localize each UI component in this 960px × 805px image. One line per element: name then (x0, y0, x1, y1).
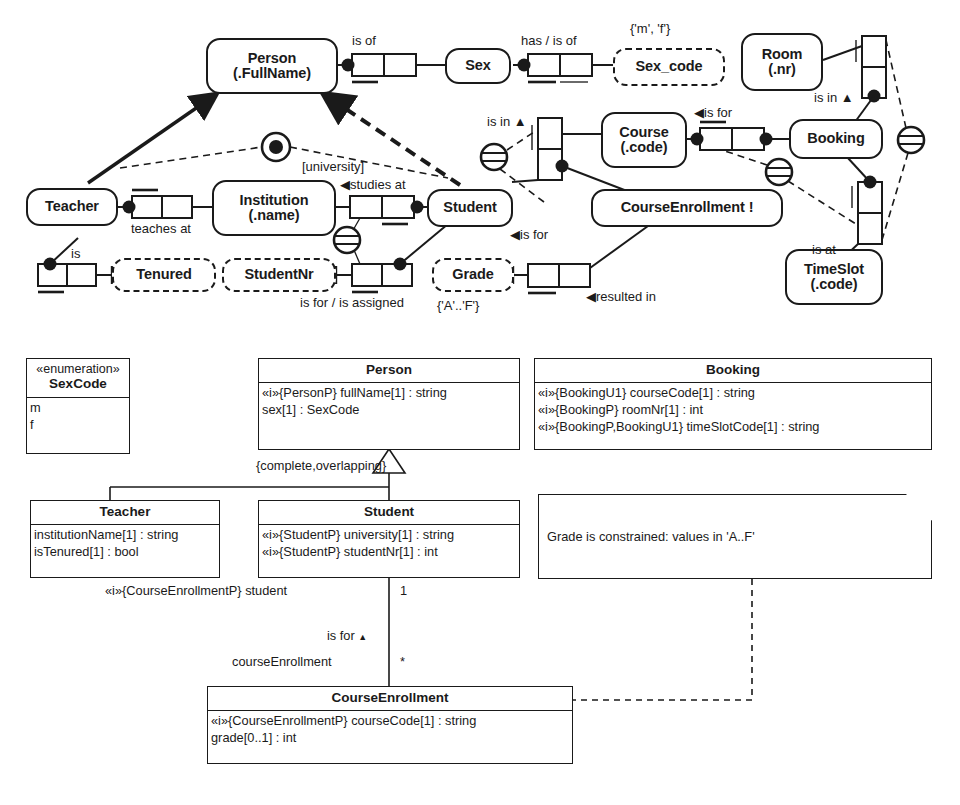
orm-entity-teacher[interactable]: Teacher (26, 188, 118, 226)
uml-class-teacher-header: Teacher (31, 501, 219, 525)
orm-value-sex-code[interactable]: Sex_code (613, 48, 725, 86)
uml-attribute: isTenured[1] : bool (34, 543, 216, 560)
orm-entity-booking[interactable]: Booking (789, 119, 883, 159)
uml-class-sexcode[interactable]: «enumeration» SexCode m f (26, 358, 130, 454)
predicate-person-sex (337, 54, 446, 82)
triangle-up-icon-2: ▲ (841, 90, 854, 105)
uml-class-booking-attributes: «i»{BookingU1} courseCode[1] : string «i… (535, 383, 931, 438)
uml-attribute: institutionName[1] : string (34, 526, 216, 543)
orm-label-grade-values: {'A'..'F'} (437, 299, 479, 313)
predicate-booking-timeslot (843, 157, 882, 258)
orm-entity-course[interactable]: Course (.code) (601, 112, 687, 168)
uml-attribute: «i»{StudentP} university[1] : string (262, 526, 516, 543)
predicate-room-booking (823, 36, 886, 122)
orm-label-is-for-student-enrollment: ◀is for (510, 228, 548, 242)
uml-attribute: grade[0..1] : int (211, 729, 569, 746)
uml-class-student-name: Student (261, 504, 517, 520)
uml-association-name: is for ▲ (327, 629, 367, 643)
orm-label-is-in-course: is in ▲ (487, 115, 527, 129)
orm-entity-person[interactable]: Person (.FullName) (206, 38, 338, 94)
orm-label-has-is-of: has / is of (521, 34, 577, 48)
orm-entity-course-enrollment[interactable]: CourseEnrollment ! (591, 189, 783, 227)
predicate-course-booking (686, 122, 790, 150)
uml-class-teacher[interactable]: Teacher institutionName[1] : string isTe… (30, 500, 220, 578)
orm-entity-institution[interactable]: Institution (.name) (212, 180, 336, 236)
orm-entity-student-name: Student (443, 200, 496, 215)
uml-class-person[interactable]: Person «i»{PersonP} fullName[1] : string… (258, 358, 520, 450)
orm-entity-room-ref: (.nr) (768, 62, 796, 77)
uml-attribute: «i»{BookingU1} courseCode[1] : string (538, 384, 928, 401)
orm-entity-course-ref: (.code) (621, 140, 668, 155)
uml-class-student[interactable]: Student «i»{StudentP} university[1] : st… (258, 500, 520, 578)
uml-attribute: f (30, 416, 126, 433)
uml-class-courseenrollment-attributes: «i»{CourseEnrollmentP} courseCode[1] : s… (208, 711, 572, 749)
uml-class-courseenrollment[interactable]: CourseEnrollment «i»{CourseEnrollmentP} … (207, 686, 573, 764)
orm-entity-institution-name: Institution (240, 193, 309, 208)
uml-attribute: «i»{BookingP,BookingU1} timeSlotCode[1] … (538, 418, 928, 435)
orm-value-grade-name: Grade (452, 267, 493, 282)
predicate-teacher-institution (118, 190, 212, 218)
orm-value-student-nr[interactable]: StudentNr (222, 258, 336, 292)
uml-class-sexcode-stereotype: «enumeration» (29, 362, 127, 376)
orm-label-resulted-in: ◀resulted in (586, 290, 656, 304)
orm-label-teaches-at: teaches at (131, 222, 191, 236)
triangle-left-icon-5: ◀ (586, 289, 596, 304)
orm-entity-time-slot-name: TimeSlot (804, 262, 864, 277)
orm-label-is-for-course-booking: ◀is for (694, 106, 732, 120)
uml-attribute: «i»{StudentP} studentNr[1] : int (262, 543, 516, 560)
orm-entity-course-name: Course (619, 125, 668, 140)
triangle-left-icon: ◀ (694, 105, 704, 120)
uml-class-teacher-name: Teacher (33, 504, 217, 520)
orm-label-studies-at: ◀studies at (340, 178, 406, 192)
uml-multiplicity-student: 1 (400, 584, 407, 598)
orm-value-student-nr-name: StudentNr (244, 267, 313, 282)
orm-entity-booking-name: Booking (807, 131, 864, 146)
orm-entity-institution-ref: (.name) (249, 208, 300, 223)
triangle-up-icon-3: ▲ (358, 632, 367, 642)
orm-value-sex-code-name: Sex_code (636, 59, 703, 74)
uml-multiplicity-enrollment: * (400, 655, 405, 669)
orm-value-grade[interactable]: Grade (432, 258, 514, 292)
uml-attribute: «i»{BookingP} roomNr[1] : int (538, 401, 928, 418)
orm-entity-person-name: Person (248, 51, 297, 66)
uml-class-sexcode-header: «enumeration» SexCode (27, 359, 129, 398)
uml-class-sexcode-attributes: m f (27, 398, 129, 436)
uml-class-booking[interactable]: Booking «i»{BookingU1} courseCode[1] : s… (534, 358, 932, 450)
uml-role-enrollment: courseEnrollment (232, 655, 332, 669)
orm-entity-time-slot-ref: (.code) (811, 277, 858, 292)
orm-entity-student[interactable]: Student (427, 189, 513, 227)
triangle-left-icon-4: ◀ (510, 227, 520, 242)
uml-class-person-header: Person (259, 359, 519, 383)
uml-class-student-header: Student (259, 501, 519, 525)
equality-constraint-studies-at (334, 227, 360, 253)
orm-entity-time-slot[interactable]: TimeSlot (.code) (785, 249, 883, 305)
uml-role-student: «i»{CourseEnrollmentP} student (105, 584, 287, 598)
orm-label-is-at: is at (812, 243, 836, 257)
orm-value-tenured-name: Tenured (136, 267, 191, 282)
uml-attribute: «i»{PersonP} fullName[1] : string (262, 384, 516, 401)
orm-label-university: [university] (302, 160, 364, 174)
orm-entity-room[interactable]: Room (.nr) (741, 33, 823, 91)
uml-note-grade[interactable]: Grade is constrained: values in 'A..F' (538, 494, 932, 579)
uml-class-courseenrollment-header: CourseEnrollment (208, 687, 572, 711)
uml-class-person-attributes: «i»{PersonP} fullName[1] : string sex[1]… (259, 383, 519, 421)
uml-attribute: sex[1] : SexCode (262, 401, 516, 418)
equality-constraint-room-timeslot (882, 40, 924, 240)
orm-stub-a (512, 180, 538, 182)
uml-attribute: «i»{CourseEnrollmentP} courseCode[1] : s… (211, 712, 569, 729)
orm-entity-sex[interactable]: Sex (445, 48, 511, 84)
uml-class-booking-name: Booking (537, 362, 929, 378)
triangle-up-icon: ▲ (514, 114, 527, 129)
triangle-left-icon-3: ◀ (340, 177, 350, 192)
orm-label-is-for-is-assigned: is for / is assigned (300, 296, 404, 310)
uml-class-person-name: Person (261, 362, 517, 378)
uml-note-grade-text: Grade is constrained: values in 'A..F' (547, 529, 755, 544)
orm-label-is-of: is of (352, 34, 376, 48)
uml-class-teacher-attributes: institutionName[1] : string isTenured[1]… (31, 525, 219, 563)
orm-entity-course-enrollment-name: CourseEnrollment ! (621, 200, 754, 215)
uml-class-student-attributes: «i»{StudentP} university[1] : string «i»… (259, 525, 519, 563)
orm-entity-person-ref: (.FullName) (233, 66, 311, 81)
diagram-canvas: Person (.FullName) Sex Sex_code Room (.n… (0, 0, 960, 805)
predicate-sex-sexcode (513, 54, 614, 82)
orm-value-tenured[interactable]: Tenured (112, 258, 216, 292)
